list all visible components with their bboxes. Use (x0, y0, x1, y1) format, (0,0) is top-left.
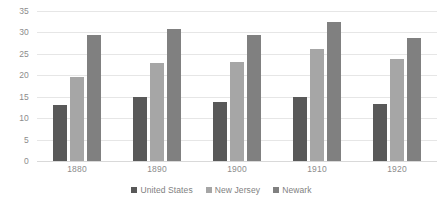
x-axis-tick-label: 1920 (357, 164, 437, 174)
y-axis-tick-label: 35 (19, 6, 29, 16)
bar (53, 105, 67, 161)
legend-swatch-icon (131, 187, 137, 193)
gridline (37, 161, 437, 162)
bar-group-bars (197, 11, 277, 161)
x-axis-tick-label: 1890 (117, 164, 197, 174)
bar (133, 97, 147, 161)
legend-swatch-icon (206, 187, 212, 193)
bar-groups (37, 11, 437, 161)
bar (247, 35, 261, 161)
bar-group-bars (37, 11, 117, 161)
bar-group (277, 11, 357, 161)
y-axis-tick-label: 30 (19, 27, 29, 37)
x-axis-tick-label: 1910 (277, 164, 357, 174)
bar (213, 102, 227, 161)
legend-label: United States (140, 185, 192, 195)
x-axis: 18801890190019101920 (37, 164, 437, 174)
chart-legend: United StatesNew JerseyNewark (0, 185, 443, 195)
y-axis: 05101520253035 (0, 11, 33, 161)
bar (390, 59, 404, 161)
bar (167, 29, 181, 161)
legend-item[interactable]: United States (131, 185, 192, 195)
legend-item[interactable]: Newark (273, 185, 311, 195)
x-axis-tick-label: 1880 (37, 164, 117, 174)
bar (150, 63, 164, 161)
bar (87, 35, 101, 161)
y-axis-tick-label: 10 (19, 113, 29, 123)
legend-swatch-icon (273, 187, 279, 193)
bar (230, 62, 244, 161)
legend-label: Newark (282, 185, 311, 195)
bar-group (357, 11, 437, 161)
bar-chart: 05101520253035 18801890190019101920 Unit… (0, 0, 443, 205)
bar (407, 38, 421, 161)
bar-group (37, 11, 117, 161)
bar (293, 97, 307, 161)
bar (327, 22, 341, 161)
bar-group (197, 11, 277, 161)
y-axis-tick-label: 20 (19, 70, 29, 80)
bar-group-bars (117, 11, 197, 161)
y-axis-tick-label: 0 (24, 156, 29, 166)
x-axis-tick-label: 1900 (197, 164, 277, 174)
bar (310, 49, 324, 161)
y-axis-tick-label: 25 (19, 49, 29, 59)
clipped-chart-title (0, 0, 443, 4)
bar-group-bars (357, 11, 437, 161)
bar-group-bars (277, 11, 357, 161)
legend-item[interactable]: New Jersey (206, 185, 260, 195)
legend-label: New Jersey (215, 185, 260, 195)
bar-group (117, 11, 197, 161)
y-axis-tick-label: 5 (24, 135, 29, 145)
bar (373, 104, 387, 161)
bar (70, 77, 84, 161)
y-axis-tick-label: 15 (19, 92, 29, 102)
